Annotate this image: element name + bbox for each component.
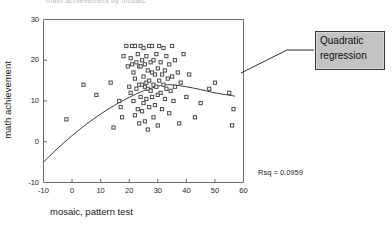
scatter-point bbox=[139, 65, 142, 68]
scatter-point bbox=[159, 61, 162, 64]
scatter-point bbox=[118, 99, 121, 102]
scatter-point bbox=[122, 55, 125, 58]
scatter-point bbox=[129, 57, 132, 60]
quadratic-regression-callout: Quadratic regression bbox=[315, 31, 385, 70]
scatter-point bbox=[168, 112, 171, 115]
scatter-point bbox=[153, 103, 156, 106]
y-tick-label: 10 bbox=[18, 97, 39, 105]
scatter-point bbox=[82, 83, 85, 86]
chart-figure: math achievement by mosaic -100102030405… bbox=[0, 0, 392, 230]
x-tick-label: -10 bbox=[38, 187, 49, 195]
scatter-point bbox=[95, 93, 98, 96]
scatter-point bbox=[179, 81, 182, 84]
scatter-point bbox=[133, 44, 136, 47]
y-tick-label: 20 bbox=[18, 57, 39, 65]
scatter-point bbox=[139, 95, 142, 98]
scatter-point bbox=[173, 85, 176, 88]
scatter-point bbox=[143, 120, 146, 123]
scatter-point bbox=[129, 91, 132, 94]
rsq-annotation: Rsq = 0.0959 bbox=[258, 168, 303, 177]
x-axis-title: mosaic, pattern test bbox=[50, 206, 133, 217]
scatter-point bbox=[146, 69, 149, 72]
scatter-point bbox=[213, 81, 216, 84]
scatter-point bbox=[140, 59, 143, 62]
scatter-point bbox=[145, 55, 148, 58]
scatter-point bbox=[145, 97, 148, 100]
scatter-point bbox=[133, 114, 136, 117]
scatter-point bbox=[135, 61, 138, 64]
scatter-point bbox=[143, 63, 146, 66]
scatter-point bbox=[158, 79, 161, 82]
y-axis-title: math achievement bbox=[2, 61, 13, 139]
scatter-point bbox=[128, 85, 131, 88]
scatter-point bbox=[146, 128, 149, 131]
scatter-point bbox=[152, 59, 155, 62]
tick-marks bbox=[44, 60, 215, 182]
scatter-point bbox=[228, 91, 231, 94]
x-tick-label: 0 bbox=[70, 187, 74, 195]
scatter-point bbox=[165, 55, 168, 58]
scatter-point bbox=[148, 79, 151, 82]
scatter-point bbox=[155, 53, 158, 56]
x-tick-label: 20 bbox=[125, 187, 133, 195]
scatter-point bbox=[176, 71, 179, 74]
scatter-point bbox=[160, 108, 163, 111]
scatter-point bbox=[142, 101, 145, 104]
x-tick-label: 10 bbox=[96, 187, 104, 195]
scatter-point bbox=[136, 53, 139, 56]
scatter-point bbox=[142, 75, 145, 78]
x-tick-label: 60 bbox=[239, 187, 247, 195]
scatter-point bbox=[65, 118, 68, 121]
scatter-point bbox=[168, 63, 171, 66]
scatter-point bbox=[172, 99, 175, 102]
scatter-point bbox=[150, 44, 153, 47]
callout-leader-line bbox=[241, 50, 314, 73]
scatter-point bbox=[170, 44, 173, 47]
scatter-point bbox=[130, 63, 133, 66]
scatter-point bbox=[193, 116, 196, 119]
scatter-point bbox=[148, 106, 151, 109]
scatter-point bbox=[149, 89, 152, 92]
scatter-point bbox=[153, 73, 156, 76]
y-tick-label: 0 bbox=[18, 138, 39, 146]
scatter-point bbox=[163, 69, 166, 72]
scatter-point bbox=[185, 95, 188, 98]
scatter-point bbox=[126, 65, 129, 68]
scatter-point bbox=[158, 44, 161, 47]
scatter-point bbox=[199, 101, 202, 104]
scatter-point bbox=[135, 87, 138, 90]
scatter-point bbox=[182, 53, 185, 56]
scatter-point bbox=[152, 116, 155, 119]
x-tick-label: 50 bbox=[211, 187, 219, 195]
scatter-point bbox=[112, 126, 115, 129]
scatter-point bbox=[125, 44, 128, 47]
scatter-point bbox=[208, 87, 211, 90]
scatter-point bbox=[162, 83, 165, 86]
y-tick-label: 30 bbox=[18, 16, 39, 24]
scatter-point bbox=[166, 77, 169, 80]
scatter-point bbox=[162, 46, 165, 49]
scatter-point bbox=[188, 73, 191, 76]
scatter-point bbox=[138, 122, 141, 125]
scatter-point bbox=[109, 81, 112, 84]
scatter-point bbox=[169, 89, 172, 92]
scatter-point bbox=[155, 85, 158, 88]
x-tick-label: 30 bbox=[154, 187, 162, 195]
scatter-point bbox=[156, 67, 159, 70]
scatter-points bbox=[65, 44, 235, 131]
y-tick-label: -10 bbox=[18, 179, 39, 187]
scatter-point bbox=[173, 59, 176, 62]
scatter-point bbox=[119, 106, 122, 109]
scatter-point bbox=[159, 91, 162, 94]
scatter-point bbox=[140, 110, 143, 113]
scatter-point bbox=[136, 108, 139, 111]
scatter-point bbox=[160, 73, 163, 76]
scatter-point bbox=[150, 95, 153, 98]
scatter-point bbox=[132, 99, 135, 102]
scatter-point bbox=[132, 71, 135, 74]
scatter-point bbox=[142, 46, 145, 49]
scatter-point bbox=[120, 116, 123, 119]
scatter-point bbox=[232, 108, 235, 111]
scatter-point bbox=[165, 87, 168, 90]
callout-line-2: regression bbox=[320, 49, 381, 64]
